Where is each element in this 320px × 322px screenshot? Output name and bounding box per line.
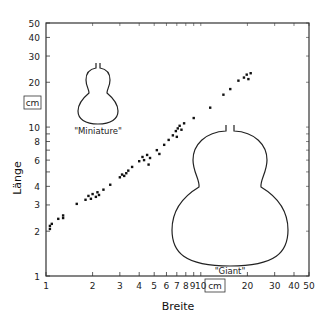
data-point bbox=[91, 193, 93, 195]
data-point bbox=[87, 195, 89, 197]
y-tick-label: 20 bbox=[29, 78, 41, 88]
y-tick-label: 30 bbox=[29, 52, 41, 62]
y-tick-label: 3 bbox=[34, 200, 40, 210]
data-point bbox=[51, 223, 53, 225]
data-point bbox=[95, 196, 97, 198]
x-tick-label: 4 bbox=[136, 281, 142, 291]
data-point bbox=[180, 129, 182, 131]
data-point bbox=[62, 217, 64, 219]
x-unit-label: cm bbox=[208, 281, 222, 291]
data-point bbox=[158, 153, 160, 155]
data-point bbox=[143, 159, 145, 161]
data-point bbox=[98, 194, 100, 196]
x-axis-ticks: 1234567891020304050 bbox=[43, 23, 315, 291]
giant-gourd-outline bbox=[172, 125, 288, 266]
data-point bbox=[222, 93, 224, 95]
data-point bbox=[243, 76, 245, 78]
gourd-allometry-chart: 1234567891020304050 1234681020304050 cm … bbox=[0, 0, 320, 322]
y-unit-marker: cm bbox=[24, 96, 41, 109]
y-tick-label: 10 bbox=[29, 123, 41, 133]
scatter-points bbox=[49, 72, 252, 230]
giant-label: "Giant" bbox=[215, 266, 246, 276]
y-tick-label: 1 bbox=[34, 272, 40, 282]
data-point bbox=[102, 188, 104, 190]
data-point bbox=[90, 198, 92, 200]
data-point bbox=[109, 184, 111, 186]
data-point bbox=[172, 134, 174, 136]
data-point bbox=[178, 125, 180, 127]
data-point bbox=[247, 78, 249, 80]
data-point bbox=[176, 136, 178, 138]
x-tick-label: 1 bbox=[43, 281, 49, 291]
data-point bbox=[96, 191, 98, 193]
y-tick-label: 6 bbox=[34, 156, 40, 166]
data-point bbox=[121, 173, 123, 175]
miniature-gourd-outline bbox=[78, 63, 118, 124]
data-point bbox=[175, 130, 177, 132]
x-tick-label: 8 bbox=[183, 281, 189, 291]
data-point bbox=[57, 218, 59, 220]
x-tick-label: 6 bbox=[164, 281, 170, 291]
data-point bbox=[49, 225, 51, 227]
y-unit-label: cm bbox=[26, 98, 40, 108]
data-point bbox=[125, 172, 127, 174]
x-tick-label: 2 bbox=[90, 281, 96, 291]
data-point bbox=[119, 176, 121, 178]
x-tick-label: 3 bbox=[117, 281, 123, 291]
data-point bbox=[127, 169, 129, 171]
data-point bbox=[146, 154, 148, 156]
data-point bbox=[84, 199, 86, 201]
data-point bbox=[183, 122, 185, 124]
y-tick-label: 4 bbox=[34, 182, 40, 192]
data-point bbox=[237, 79, 239, 81]
y-axis-title: Länge bbox=[11, 161, 24, 195]
data-point bbox=[246, 73, 248, 75]
data-point bbox=[62, 214, 64, 216]
y-tick-label: 2 bbox=[34, 227, 40, 237]
data-point bbox=[249, 72, 251, 74]
y-tick-label: 40 bbox=[29, 33, 41, 43]
x-unit-marker: cm bbox=[205, 279, 225, 292]
x-tick-label: 5 bbox=[151, 281, 157, 291]
data-point bbox=[147, 163, 149, 165]
data-point bbox=[177, 127, 179, 129]
x-tick-label: 20 bbox=[242, 281, 254, 291]
data-point bbox=[138, 160, 140, 162]
data-point bbox=[163, 144, 165, 146]
data-point bbox=[149, 157, 151, 159]
x-axis-title: Breite bbox=[162, 300, 195, 313]
y-tick-label: 50 bbox=[29, 19, 41, 29]
data-point bbox=[209, 106, 211, 108]
data-point bbox=[193, 117, 195, 119]
x-tick-label: 30 bbox=[269, 281, 281, 291]
data-point bbox=[123, 175, 125, 177]
data-point bbox=[167, 139, 169, 141]
data-point bbox=[229, 88, 231, 90]
miniature-label: "Miniature" bbox=[74, 126, 122, 136]
y-axis-ticks: 1234681020304050 bbox=[29, 19, 309, 282]
data-point bbox=[76, 203, 78, 205]
y-tick-label: 8 bbox=[34, 137, 40, 147]
data-point bbox=[131, 166, 133, 168]
x-tick-label: 50 bbox=[303, 281, 315, 291]
x-tick-label: 40 bbox=[288, 281, 300, 291]
x-tick-label: 7 bbox=[174, 281, 180, 291]
data-point bbox=[156, 149, 158, 151]
plot-frame bbox=[46, 23, 309, 276]
data-point bbox=[141, 156, 143, 158]
data-point bbox=[49, 228, 51, 230]
